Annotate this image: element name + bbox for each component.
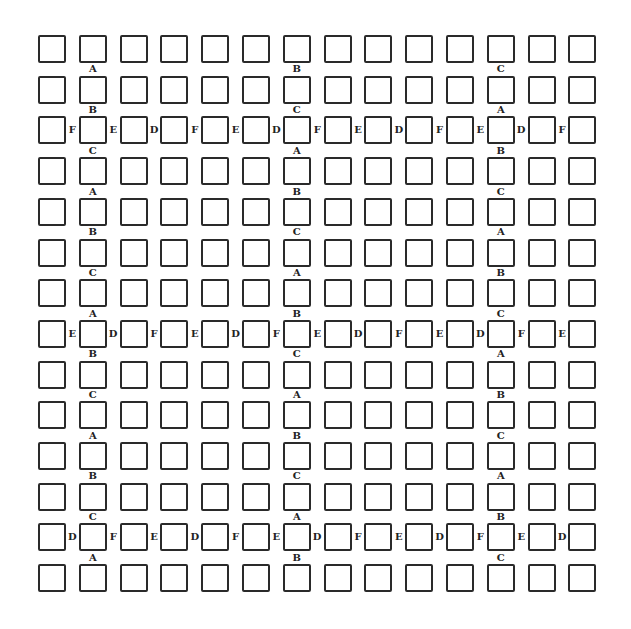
grid-cell: [160, 239, 188, 267]
grid-cell: [242, 564, 270, 592]
grid-cell: [364, 320, 392, 348]
grid-cell: [79, 116, 107, 144]
grid-cell: [120, 523, 148, 551]
grid-cell: [283, 279, 311, 307]
grid-cell: [160, 483, 188, 511]
row-label: F: [515, 329, 527, 339]
grid-cell: [568, 279, 596, 307]
grid-cell: [120, 483, 148, 511]
grid-cell: [487, 483, 515, 511]
grid-cell: [405, 564, 433, 592]
grid-cell: [79, 76, 107, 104]
row-label: E: [515, 532, 527, 542]
column-label: A: [87, 309, 99, 319]
grid-cell: [283, 564, 311, 592]
row-label: D: [189, 532, 201, 542]
column-label: C: [87, 390, 99, 400]
row-label: E: [434, 329, 446, 339]
grid-cell: [38, 483, 66, 511]
column-label: A: [495, 227, 507, 237]
grid-cell: [201, 483, 229, 511]
grid-cell: [568, 442, 596, 470]
grid-cell: [324, 116, 352, 144]
grid-cell: [405, 157, 433, 185]
grid-cell: [79, 35, 107, 63]
grid-cell: [364, 483, 392, 511]
grid-cell: [201, 198, 229, 226]
column-label: C: [495, 187, 507, 197]
row-label: F: [270, 329, 282, 339]
grid-cell: [528, 401, 556, 429]
row-label: D: [311, 532, 323, 542]
grid-cell: [283, 320, 311, 348]
grid-cell: [487, 320, 515, 348]
grid-cell: [446, 401, 474, 429]
grid-cell: [242, 483, 270, 511]
grid-cell: [160, 279, 188, 307]
grid-cell: [242, 198, 270, 226]
grid-cell: [79, 279, 107, 307]
grid-cell: [528, 564, 556, 592]
grid-cell: [528, 320, 556, 348]
grid-cell: [568, 157, 596, 185]
row-label: D: [393, 125, 405, 135]
column-label: A: [291, 146, 303, 156]
row-label: F: [230, 532, 242, 542]
grid-cell: [160, 320, 188, 348]
grid-cell: [38, 401, 66, 429]
grid-cell: [487, 564, 515, 592]
row-label: D: [66, 532, 78, 542]
row-label: E: [66, 329, 78, 339]
grid-cell: [201, 35, 229, 63]
grid-cell: [79, 483, 107, 511]
grid-cell: [487, 442, 515, 470]
grid-cell: [79, 320, 107, 348]
grid-cell: [38, 320, 66, 348]
grid-cell: [283, 361, 311, 389]
grid-cell: [405, 76, 433, 104]
grid-cell: [324, 320, 352, 348]
grid-cell: [364, 564, 392, 592]
grid-cell: [446, 523, 474, 551]
column-label: A: [87, 553, 99, 563]
grid-cell: [201, 239, 229, 267]
grid-cell: [324, 483, 352, 511]
grid-cell: [568, 320, 596, 348]
grid-cell: [446, 76, 474, 104]
column-label: C: [291, 471, 303, 481]
grid-cell: [242, 279, 270, 307]
grid-cell: [446, 198, 474, 226]
grid-cell: [283, 76, 311, 104]
grid-cell: [364, 76, 392, 104]
row-label: E: [189, 329, 201, 339]
grid-cell: [160, 116, 188, 144]
grid-cell: [120, 35, 148, 63]
grid-cell: [201, 361, 229, 389]
grid-cell: [487, 523, 515, 551]
grid-cell: [38, 361, 66, 389]
grid-cell: [364, 198, 392, 226]
grid-cell: [242, 523, 270, 551]
row-label: D: [230, 329, 242, 339]
grid-cell: [487, 116, 515, 144]
grid-cell: [38, 279, 66, 307]
grid-cell: [160, 564, 188, 592]
grid-cell: [160, 523, 188, 551]
grid-cell: [283, 442, 311, 470]
grid-cell: [79, 239, 107, 267]
grid-cell: [201, 279, 229, 307]
grid-cell: [405, 523, 433, 551]
grid-cell: [446, 116, 474, 144]
grid-cell: [38, 76, 66, 104]
grid-cell: [324, 239, 352, 267]
grid-cell: [79, 564, 107, 592]
grid-cell: [487, 198, 515, 226]
grid-cell: [120, 116, 148, 144]
row-label: E: [311, 329, 323, 339]
grid-cell: [38, 239, 66, 267]
column-label: A: [291, 390, 303, 400]
column-label: B: [495, 268, 507, 278]
grid-cell: [324, 442, 352, 470]
row-label: E: [556, 329, 568, 339]
column-label: B: [291, 187, 303, 197]
